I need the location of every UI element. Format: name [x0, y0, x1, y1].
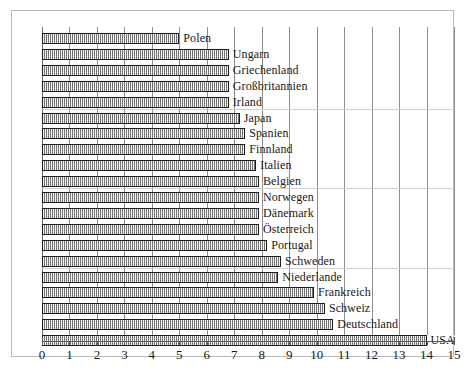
bar-label: Portugal	[267, 238, 312, 252]
x-axis-line	[42, 341, 454, 342]
x-tick-3	[124, 341, 125, 345]
bar-series: PolenUngarnGriechenlandGroßbritannienIrl…	[42, 27, 454, 335]
bar-label: Schweden	[281, 254, 335, 268]
x-tick-label: 7	[231, 347, 238, 363]
x-tick-label: 4	[149, 347, 156, 363]
x-tick-label: 9	[286, 347, 293, 363]
bar-norwegen	[42, 192, 259, 203]
x-tick-label: 8	[258, 347, 265, 363]
x-tick-label: 3	[121, 347, 128, 363]
bar-label: Finnland	[245, 142, 292, 156]
x-tick-label: 10	[310, 347, 323, 363]
x-tick-10	[317, 341, 318, 345]
bar-spanien	[42, 128, 245, 139]
bar-label: Griechenland	[229, 63, 299, 77]
bar-label: Irland	[229, 95, 262, 109]
bar-japan	[42, 113, 240, 124]
page-frame: PolenUngarnGriechenlandGroßbritannienIrl…	[11, 10, 454, 357]
x-tick-9	[289, 341, 290, 345]
bar-gro-britannien	[42, 81, 229, 92]
axis-end-cap	[42, 337, 43, 342]
plot-area: PolenUngarnGriechenlandGroßbritannienIrl…	[42, 27, 454, 335]
x-tick-14	[427, 341, 428, 345]
x-tick-12	[372, 341, 373, 345]
x-tick-label: 0	[39, 347, 46, 363]
x-tick-label: 13	[393, 347, 406, 363]
bar--sterreich	[42, 224, 259, 235]
bar-label: Deutschland	[333, 317, 398, 331]
bar-frankreich	[42, 287, 314, 298]
bar-schweden	[42, 256, 281, 267]
x-tick-label: 1	[66, 347, 73, 363]
bar-deutschland	[42, 319, 333, 330]
bar-belgien	[42, 176, 259, 187]
bar-portugal	[42, 240, 267, 251]
bar-irland	[42, 97, 229, 108]
bar-label: Norwegen	[259, 190, 314, 204]
x-tick-label: 14	[420, 347, 433, 363]
axis-end-cap	[454, 337, 455, 342]
bar-finnland	[42, 144, 245, 155]
bar-label: Italien	[256, 158, 291, 172]
bar-label: Schweiz	[325, 301, 370, 315]
x-tick-label: 6	[204, 347, 211, 363]
bar-italien	[42, 160, 256, 171]
x-tick-label: 12	[365, 347, 378, 363]
x-tick-13	[399, 341, 400, 345]
x-tick-1	[69, 341, 70, 345]
bar-label: Österreich	[259, 222, 314, 236]
x-tick-7	[234, 341, 235, 345]
bar-niederlande	[42, 272, 278, 283]
bar-label: Niederlande	[278, 270, 342, 284]
bar-schweiz	[42, 303, 325, 314]
bar-label: Spanien	[245, 126, 288, 140]
x-tick-label: 15	[448, 347, 461, 363]
bar-label: Frankreich	[314, 285, 371, 299]
x-tick-8	[262, 341, 263, 345]
bar-label: Großbritannien	[229, 79, 308, 93]
bar-label: Dänemark	[259, 206, 314, 220]
x-tick-5	[179, 341, 180, 345]
bar-griechenland	[42, 65, 229, 76]
gridline-x-15	[454, 27, 455, 335]
bar-polen	[42, 33, 179, 44]
bar-label: Belgien	[259, 174, 301, 188]
x-tick-label: 11	[338, 347, 351, 363]
x-tick-4	[152, 341, 153, 345]
x-tick-6	[207, 341, 208, 345]
x-tick-label: 5	[176, 347, 183, 363]
bar-label: Ungarn	[229, 47, 270, 61]
x-tick-label: 2	[94, 347, 101, 363]
x-tick-2	[97, 341, 98, 345]
bar-ungarn	[42, 49, 229, 60]
bar-label: Japan	[240, 111, 272, 125]
bar-label: Polen	[179, 31, 211, 45]
bar-d-nemark	[42, 208, 259, 219]
x-tick-11	[344, 341, 345, 345]
